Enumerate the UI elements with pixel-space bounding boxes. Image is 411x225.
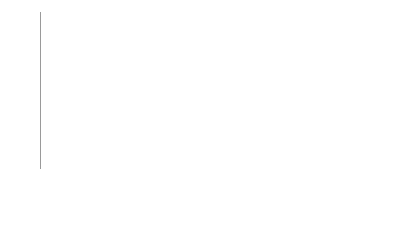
- bar-series-container: [41, 12, 389, 169]
- stacked-bar-chart: [0, 0, 411, 225]
- plot-area: [41, 12, 389, 169]
